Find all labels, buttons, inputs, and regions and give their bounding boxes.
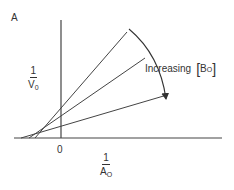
plot-line-steep: [35, 32, 127, 138]
species-base: B: [200, 64, 207, 74]
lineweaver-burk-figure: A 0 1 V0 1 AO Increasing [BO]: [0, 0, 234, 190]
x-axis-label-base: A: [100, 166, 107, 177]
concentration-term: [BO]: [196, 62, 216, 76]
plot-line-shallow: [21, 95, 167, 138]
y-axis-label-base: V: [28, 79, 35, 90]
y-axis-label-numerator: 1: [30, 66, 38, 78]
y-axis-label-denominator: V0: [28, 78, 39, 91]
plot-canvas: [0, 0, 234, 190]
plot-line-middle: [29, 58, 145, 138]
y-axis-label-sub: 0: [35, 84, 39, 91]
y-axis-label: 1 V0: [28, 66, 39, 91]
increasing-annotation: Increasing [BO]: [145, 62, 216, 76]
x-axis-label: 1 AO: [100, 153, 112, 178]
x-axis-label-numerator: 1: [102, 153, 110, 165]
bracket-close: ]: [212, 62, 216, 76]
x-axis-label-sub: O: [107, 171, 112, 178]
panel-label: A: [11, 13, 18, 23]
origin-label: 0: [57, 145, 63, 155]
x-axis-label-denominator: AO: [100, 165, 112, 178]
annotation-text: Increasing: [145, 64, 191, 74]
